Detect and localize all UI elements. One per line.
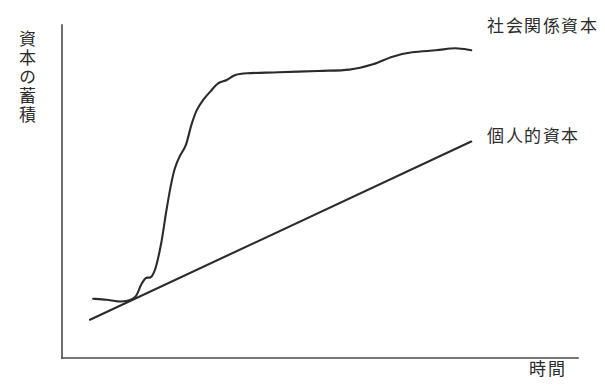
x-axis-label: 時間 [529, 355, 567, 380]
chart-canvas [0, 0, 605, 391]
series-line-personal-capital [90, 142, 471, 320]
series-label-personal-capital: 個人的資本 [487, 122, 580, 147]
series-line-social-capital [93, 48, 471, 301]
series-label-social-capital: 社会関係資本 [487, 12, 598, 37]
chart-figure: 資本の蓄積 時間 社会関係資本 個人的資本 [0, 0, 605, 391]
y-axis-label: 資本の蓄積 [6, 30, 36, 125]
